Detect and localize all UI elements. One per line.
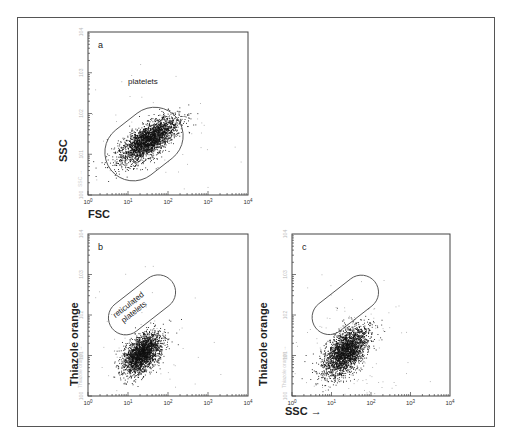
x-tick-label: 102: [163, 399, 173, 406]
x-tick-label: 101: [123, 198, 133, 205]
plot-area: [88, 32, 248, 195]
x-tick-label: 101: [123, 399, 133, 406]
x-tick-label: 103: [203, 399, 213, 406]
x-tick-label: 102: [366, 399, 376, 406]
y-tick-label: 101: [78, 150, 84, 159]
x-tick-label: 104: [243, 399, 253, 406]
faint-y-axis-label: SSC →: [77, 170, 83, 187]
panel-a-y-title: SSC: [57, 139, 69, 162]
y-tick-label: 100: [78, 392, 84, 401]
y-tick-label: 104: [78, 28, 84, 37]
panel-a-x-title: FSC: [88, 208, 110, 220]
y-tick-label: 104: [78, 230, 84, 239]
panel-a: 100100101101102102103103104104SSC →aplat…: [77, 28, 253, 205]
x-tick-label: 100: [83, 198, 93, 205]
y-tick-label: 103: [78, 270, 84, 279]
x-tick-label: 101: [327, 399, 337, 406]
gate-label: reticulatedplatelets: [111, 290, 151, 327]
x-tick-label: 102: [163, 198, 173, 205]
y-tick-label: 100: [78, 191, 84, 200]
x-tick-label: 100: [83, 399, 93, 406]
panel-c-y-title: Thiazole orange: [257, 302, 269, 386]
y-tick-label: 102: [282, 311, 288, 320]
x-tick-label: 104: [445, 399, 455, 406]
panel-b: 100100101101102102103103104104Thiazole o…: [77, 230, 253, 406]
panel-c-x-title: SSC →: [285, 405, 322, 417]
y-tick-label: 100: [282, 392, 288, 401]
faint-y-axis-label: Thiazole orange →: [281, 346, 287, 388]
y-tick-label: 102: [78, 109, 84, 118]
x-tick-label: 104: [243, 198, 253, 205]
gate-label: platelets: [128, 77, 158, 86]
y-tick-label: 103: [282, 270, 288, 279]
y-tick-label: 104: [282, 230, 288, 239]
x-tick-label: 103: [406, 399, 416, 406]
panel-letter: b: [98, 242, 103, 252]
panel-b-y-title: Thiazole orange: [68, 302, 80, 386]
y-tick-label: 103: [78, 68, 84, 77]
x-tick-label: 103: [203, 198, 213, 205]
panel-c: 100100101101102102103103104104Thiazole o…: [281, 230, 455, 406]
panel-letter: a: [98, 40, 103, 50]
panel-letter: c: [302, 242, 307, 252]
